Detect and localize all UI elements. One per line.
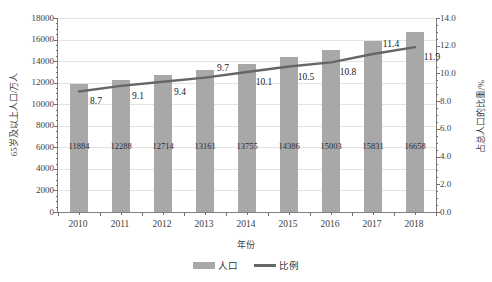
y-axis-right-tick-label: 2.0 (440, 180, 476, 189)
x-axis-minor-tickmark (205, 212, 206, 215)
bar-value-label: 16658 (392, 141, 438, 151)
y-axis-right-minor-tickmark (436, 39, 438, 40)
line-value-label: 10.5 (289, 72, 323, 82)
x-axis-tickmark (436, 212, 437, 216)
y-axis-left-tick-label: 8000 (18, 121, 54, 130)
line-value-label: 11.4 (374, 39, 408, 49)
x-axis-tick-label: 2015 (267, 219, 309, 229)
y-axis-right-minor-tickmark (436, 80, 438, 81)
population-aging-chart: 65岁及以上人口/万人 占总人口的比重/% 年份 180001600014000… (0, 0, 492, 282)
y-axis-right-minor-tickmark (436, 32, 438, 33)
x-axis-tickmark (310, 212, 311, 216)
y-axis-right-minor-tickmark (436, 177, 438, 178)
bar-value-label: 12714 (140, 141, 186, 151)
y-axis-right-minor-tickmark (436, 129, 438, 130)
x-axis-ticks: 201020112012201320142015201620172018 (57, 219, 435, 233)
line-value-label: 8.7 (79, 96, 113, 106)
bar-value-label: 14386 (266, 141, 312, 151)
plot-area: 1188412288127141316113755143861500315831… (57, 18, 437, 213)
y-axis-right-minor-tickmark (436, 122, 438, 123)
x-axis-minor-tickmark (415, 212, 416, 215)
y-axis-right-tick-label: 8.0 (440, 97, 476, 106)
x-axis-tickmark (352, 212, 353, 216)
y-axis-right-minor-tickmark (436, 205, 438, 206)
x-axis-minor-tickmark (121, 212, 122, 215)
y-axis-right-minor-tickmark (436, 115, 438, 116)
x-axis-minor-tickmark (79, 212, 80, 215)
legend-item-line[interactable]: 比例 (254, 258, 299, 272)
x-axis-tickmark (184, 212, 185, 216)
y-axis-left-tick-label: 10000 (18, 100, 54, 109)
y-axis-right-minor-tickmark (436, 164, 438, 165)
legend-label-line: 比例 (279, 258, 299, 272)
y-axis-right-minor-tickmark (436, 73, 438, 74)
plot-inner: 1188412288127141316113755143861500315831… (58, 18, 436, 212)
x-axis-title: 年份 (196, 238, 296, 251)
y-axis-left-tick-label: 4000 (18, 164, 54, 173)
y-axis-left-tick-label: 0 (18, 208, 54, 217)
line-value-label: 9.4 (163, 87, 197, 97)
x-axis-minor-tickmark (373, 212, 374, 215)
y-axis-left-ticks: 1800016000140001200010000800060004000200… (18, 18, 54, 212)
legend-item-bar[interactable]: 人口 (193, 258, 238, 272)
y-axis-right-minor-tickmark (436, 94, 438, 95)
y-axis-right-tick-label: 4.0 (440, 152, 476, 161)
y-axis-right-minor-tickmark (436, 191, 438, 192)
y-axis-right-minor-tickmark (436, 46, 438, 47)
y-axis-right-tick-label: 10.0 (440, 69, 476, 78)
bar-value-label: 15831 (350, 141, 396, 151)
y-axis-right-minor-tickmark (436, 157, 438, 158)
x-axis-tickmark (268, 212, 269, 216)
line-value-label: 10.8 (331, 67, 365, 77)
legend-label-bar: 人口 (218, 258, 238, 272)
x-axis-minor-tickmark (247, 212, 248, 215)
y-axis-left-tick-label: 12000 (18, 78, 54, 87)
y-axis-right-minor-tickmark (436, 67, 438, 68)
y-axis-right-tick-label: 12.0 (440, 41, 476, 50)
x-axis-tick-label: 2012 (141, 219, 183, 229)
y-axis-right-minor-tickmark (436, 87, 438, 88)
line-swatch-icon (254, 264, 276, 267)
bar-value-label: 13755 (224, 141, 270, 151)
x-axis-tickmark (394, 212, 395, 216)
bar-value-label: 15003 (308, 141, 354, 151)
x-axis-minor-tickmark (331, 212, 332, 215)
x-axis-tick-label: 2010 (57, 219, 99, 229)
y-axis-left-tick-label: 16000 (18, 35, 54, 44)
x-axis-minor-tickmark (289, 212, 290, 215)
bar-value-label: 12288 (98, 141, 144, 151)
y-axis-right-minor-tickmark (436, 198, 438, 199)
x-axis-tick-label: 2016 (309, 219, 351, 229)
x-axis-tick-label: 2018 (393, 219, 435, 229)
x-axis-tick-label: 2017 (351, 219, 393, 229)
y-axis-right-tick-label: 6.0 (440, 124, 476, 133)
x-axis-tick-label: 2014 (225, 219, 267, 229)
line-value-label: 9.1 (121, 91, 155, 101)
y-axis-right-minor-tickmark (436, 136, 438, 137)
y-axis-left-tick-label: 2000 (18, 186, 54, 195)
line-value-label: 9.7 (206, 63, 240, 73)
x-axis-tickmark (58, 212, 59, 216)
y-axis-right-ticks: 14.012.010.08.06.04.02.00.0 (440, 18, 476, 212)
bar-value-label: 11884 (56, 141, 102, 151)
y-axis-right-minor-tickmark (436, 184, 438, 185)
y-axis-left-tick-label: 6000 (18, 143, 54, 152)
y-axis-right-minor-tickmark (436, 170, 438, 171)
x-axis-tickmark (226, 212, 227, 216)
x-axis-tickmark (100, 212, 101, 216)
x-axis-minor-tickmark (163, 212, 164, 215)
y-axis-right-tick-label: 14.0 (440, 14, 476, 23)
chart-legend: 人口 比例 (0, 258, 492, 272)
line-value-label: 10.1 (247, 77, 281, 87)
bar-value-label: 13161 (182, 141, 228, 151)
y-axis-right-minor-tickmark (436, 25, 438, 26)
y-axis-right-minor-tickmark (436, 101, 438, 102)
x-axis-tick-label: 2013 (183, 219, 225, 229)
line-value-label: 11.9 (415, 52, 449, 62)
x-axis-tick-label: 2011 (99, 219, 141, 229)
y-axis-right-tick-label: 0.0 (440, 208, 476, 217)
y-axis-right-minor-tickmark (436, 18, 438, 19)
y-axis-left-tick-label: 14000 (18, 57, 54, 66)
bar-swatch-icon (193, 262, 215, 269)
y-axis-right-minor-tickmark (436, 108, 438, 109)
